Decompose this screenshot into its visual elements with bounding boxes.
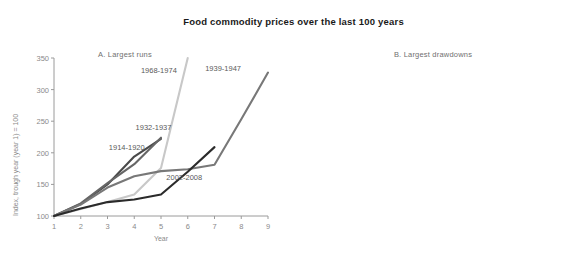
- y-axis-tick-label: 150: [36, 180, 49, 189]
- x-axis-tick-label: 5: [159, 222, 163, 231]
- x-axis-tick-label: 4: [132, 222, 136, 231]
- series-label: 1939-1947: [205, 64, 241, 73]
- x-axis-tick-label: 3: [105, 222, 109, 231]
- plot-svg: [54, 58, 268, 216]
- x-axis-tick-label: 2: [79, 222, 83, 231]
- y-axis-title: Index, trough year (year 1) = 100: [12, 114, 19, 216]
- series-line: [54, 58, 188, 216]
- y-axis-tick-label: 250: [36, 117, 49, 126]
- chart-figure: Food commodity prices over the last 100 …: [0, 0, 587, 262]
- y-axis-tick-label: 300: [36, 85, 49, 94]
- series-label: 1968-1974: [141, 66, 177, 75]
- x-axis-tick-label: 1: [52, 222, 56, 231]
- x-axis-tick-label: 9: [266, 222, 270, 231]
- series-label: 2002-2008: [166, 173, 202, 182]
- series-label: 1914-1920: [109, 143, 145, 152]
- panel-largest-drawdowns: B. Largest drawdowns 4050607080901001234…: [293, 0, 587, 262]
- plot-area-a: 1001502002503003501234567891914-19201932…: [54, 58, 268, 216]
- series-label: 1932-1937: [136, 123, 172, 132]
- panel-largest-runs: A. Largest runs 100150200250300350123456…: [0, 0, 293, 262]
- x-axis-tick-label: 7: [212, 222, 216, 231]
- y-axis-tick-label: 350: [36, 54, 49, 63]
- x-axis-title: Year: [154, 235, 168, 242]
- y-axis-tick-label: 100: [36, 212, 49, 221]
- panel-b-title: B. Largest drawdowns: [313, 50, 553, 59]
- x-axis-tick-label: 6: [186, 222, 190, 231]
- x-axis-tick-label: 8: [239, 222, 243, 231]
- series-line: [54, 139, 161, 216]
- y-axis-tick-label: 200: [36, 148, 49, 157]
